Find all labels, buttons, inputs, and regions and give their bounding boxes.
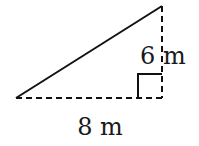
triangle-diagram: 6 m 8 m [0, 0, 199, 146]
base-label: 8 m [77, 113, 123, 141]
height-label: 6 m [140, 42, 186, 70]
right-angle-marker [138, 74, 162, 98]
